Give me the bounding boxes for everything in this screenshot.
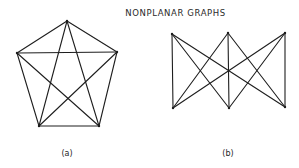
graph-vertex bbox=[98, 125, 100, 127]
graph-edge bbox=[172, 34, 173, 108]
graph-vertex bbox=[172, 107, 174, 109]
graph-canvas bbox=[0, 0, 299, 168]
graph-vertex bbox=[171, 33, 173, 35]
graph-vertex bbox=[116, 51, 118, 53]
graph-vertex bbox=[16, 52, 18, 54]
graph-edge bbox=[99, 52, 117, 126]
graph-vertex bbox=[284, 106, 286, 108]
graph-vertex bbox=[228, 107, 230, 109]
graph-edge bbox=[17, 52, 117, 53]
graph-k5 bbox=[16, 20, 118, 127]
graph-k33 bbox=[171, 32, 286, 109]
graph-a-label: (a) bbox=[61, 149, 72, 158]
graph-vertex bbox=[38, 125, 40, 127]
graph-edge bbox=[17, 53, 99, 126]
graph-b-label: (b) bbox=[222, 149, 233, 158]
graph-edge bbox=[17, 53, 39, 126]
graph-edge bbox=[39, 52, 117, 126]
graph-vertex bbox=[66, 20, 68, 22]
graph-vertex bbox=[227, 32, 229, 34]
graph-vertex bbox=[284, 32, 286, 34]
